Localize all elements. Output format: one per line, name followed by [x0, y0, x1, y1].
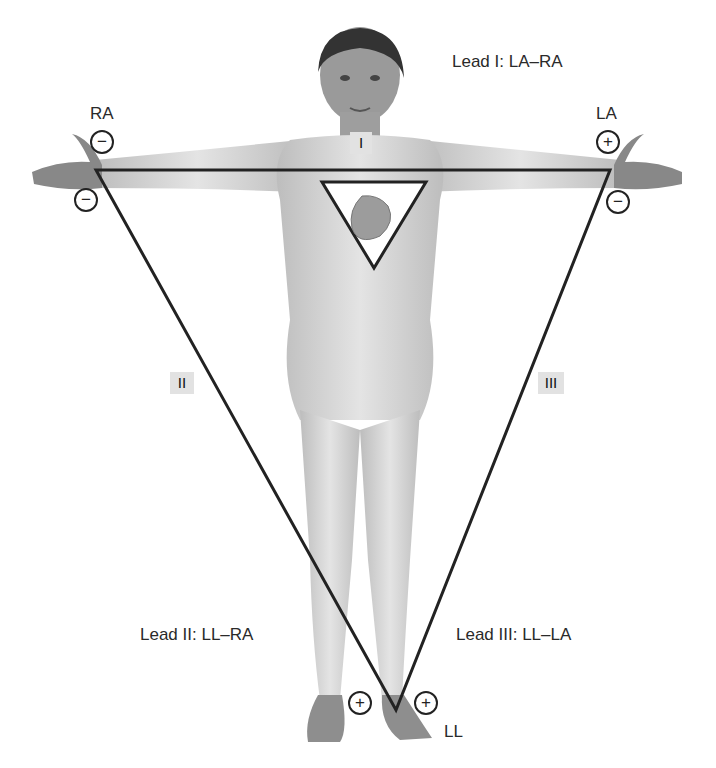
- left-leg: [360, 410, 420, 700]
- lead-III-formula: Lead III: LL–LA: [456, 625, 571, 645]
- electrode-ra-label: RA: [90, 104, 114, 124]
- ll-lead3-positive-icon: +: [414, 691, 438, 715]
- ra-lead2-negative-icon: −: [74, 188, 98, 212]
- lead-I-marker: I: [350, 132, 372, 154]
- lead-III-marker: III: [538, 372, 564, 394]
- electrode-la-label: LA: [596, 104, 617, 124]
- head: [318, 27, 404, 123]
- electrode-ll-label: LL: [444, 722, 463, 742]
- ra-lead1-negative-icon: −: [90, 130, 114, 154]
- right-foot: [307, 695, 344, 742]
- la-lead1-positive-icon: +: [596, 130, 620, 154]
- la-lead3-negative-icon: −: [606, 190, 630, 214]
- left-hand: [614, 134, 682, 189]
- lead-II-formula: Lead II: LL–RA: [140, 625, 253, 645]
- left-arm: [420, 140, 620, 192]
- torso: [277, 135, 444, 420]
- lead-I-formula: Lead I: LA–RA: [452, 52, 563, 72]
- ll-lead2-positive-icon: +: [348, 691, 372, 715]
- lead-II-marker: II: [170, 372, 194, 394]
- right-arm: [95, 140, 300, 192]
